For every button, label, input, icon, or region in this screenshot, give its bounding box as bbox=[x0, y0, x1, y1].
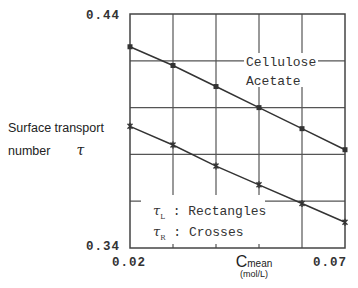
y-tick-bottom: 0.34 bbox=[86, 240, 120, 254]
x-axis-title-main: C bbox=[236, 253, 248, 270]
legend-symbol-tau-l: τL bbox=[153, 203, 165, 218]
material-annotation: Cellulose Acetate bbox=[244, 53, 318, 87]
legend: τL : Rectangles τR : Crosses bbox=[141, 195, 265, 244]
rectangle-marker bbox=[343, 147, 348, 152]
legend-text-rectangles: : Rectangles bbox=[173, 204, 267, 219]
legend-symbol-tau-r: τR bbox=[153, 224, 165, 239]
legend-item-rectangles: τL : Rectangles bbox=[153, 203, 266, 221]
x-axis-title: Cmean (mol/L) bbox=[224, 253, 284, 279]
legend-text-crosses: : Crosses bbox=[173, 225, 243, 240]
chart: Surface transport numberτ 0.44 0.34 0.02… bbox=[0, 0, 358, 288]
annotation-line1: Cellulose bbox=[246, 53, 318, 72]
x-axis-title-sub: mean bbox=[247, 258, 272, 269]
legend-item-crosses: τR : Crosses bbox=[153, 224, 244, 242]
rectangle-marker bbox=[214, 84, 219, 89]
y-axis-label-line2: number bbox=[8, 144, 50, 158]
rectangle-marker bbox=[171, 63, 176, 68]
annotation-line2: Acetate bbox=[246, 72, 318, 91]
y-axis-label: Surface transport numberτ bbox=[8, 117, 104, 162]
x-tick-right: 0.07 bbox=[313, 256, 347, 270]
x-axis-unit: (mol/L) bbox=[224, 269, 284, 279]
x-tick-left: 0.02 bbox=[112, 256, 146, 270]
tau-symbol: τ bbox=[76, 142, 84, 158]
y-tick-top: 0.44 bbox=[86, 9, 120, 23]
rectangle-marker bbox=[128, 44, 133, 49]
y-axis-label-line1: Surface transport bbox=[8, 117, 104, 139]
rectangle-marker bbox=[300, 126, 305, 131]
rectangle-marker bbox=[257, 105, 262, 110]
